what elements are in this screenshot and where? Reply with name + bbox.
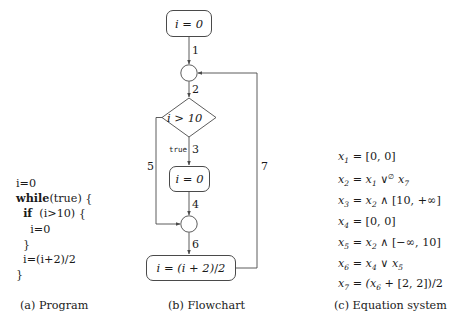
edge-3-branch-label: true: [169, 145, 187, 154]
code-line-1: i=0: [16, 176, 146, 191]
caption-flowchart: (b) Flowchart: [168, 299, 245, 312]
edge-4-label: 4: [192, 198, 199, 211]
edge-5-label: 5: [147, 160, 154, 173]
edge-3-label: 3: [192, 143, 199, 156]
edge-1-label: 1: [192, 44, 199, 57]
code-line-2: while(true) {: [16, 191, 146, 206]
equation-7: x7 = (x6 + [2, 2])/2: [338, 275, 458, 296]
edge-6-label: 6: [192, 238, 199, 251]
equation-2: x2 = x1 ∨∅ x7: [338, 169, 458, 192]
code-line-4: i=0: [16, 222, 146, 237]
code-line-7: }: [16, 267, 146, 282]
code-line-6: i=(i+2)/2: [16, 252, 146, 267]
equation-3: x3 = x2 ∧ [10, +∞]: [338, 192, 458, 213]
equation-6: x6 = x4 ∨ x5: [338, 255, 458, 276]
node-then-assign-label: i = 0: [176, 172, 204, 186]
merge-junction-circle: [181, 216, 197, 232]
node-then-assign: i = 0: [169, 166, 210, 192]
program-panel: i=0 while(true) { if (i>10) { i=0 } i=(i…: [16, 176, 146, 282]
code-line-3: if (i>10) {: [16, 206, 146, 221]
equation-1: x1 = [0, 0]: [338, 148, 458, 169]
code-line-5: }: [16, 237, 146, 252]
flowchart-panel: i = 0 i > 10 i = 0 i = (i + 2)/2 1 2 3 4…: [140, 0, 290, 290]
loop-head-junction-circle: [181, 65, 197, 81]
flowchart-svg: [140, 0, 290, 292]
keyword-while: while: [16, 191, 49, 205]
node-update-assign: i = (i + 2)/2: [146, 255, 236, 281]
equation-4: x4 = [0, 0]: [338, 213, 458, 234]
edge-7-label: 7: [261, 160, 268, 173]
node-entry-assign: i = 0: [166, 10, 212, 37]
edge-2-label: 2: [192, 83, 199, 96]
node-condition-label: i > 10: [167, 111, 202, 125]
caption-program: (a) Program: [20, 299, 88, 312]
keyword-if: if: [23, 206, 32, 220]
equations-panel: x1 = [0, 0] x2 = x1 ∨∅ x7 x3 = x2 ∧ [10,…: [338, 148, 458, 296]
equation-5: x5 = x2 ∧ [−∞, 10]: [338, 234, 458, 255]
node-update-assign-label: i = (i + 2)/2: [157, 261, 226, 275]
figure-container: i=0 while(true) { if (i>10) { i=0 } i=(i…: [0, 0, 458, 330]
caption-equations: (c) Equation system: [334, 299, 447, 312]
node-entry-assign-label: i = 0: [175, 17, 203, 31]
